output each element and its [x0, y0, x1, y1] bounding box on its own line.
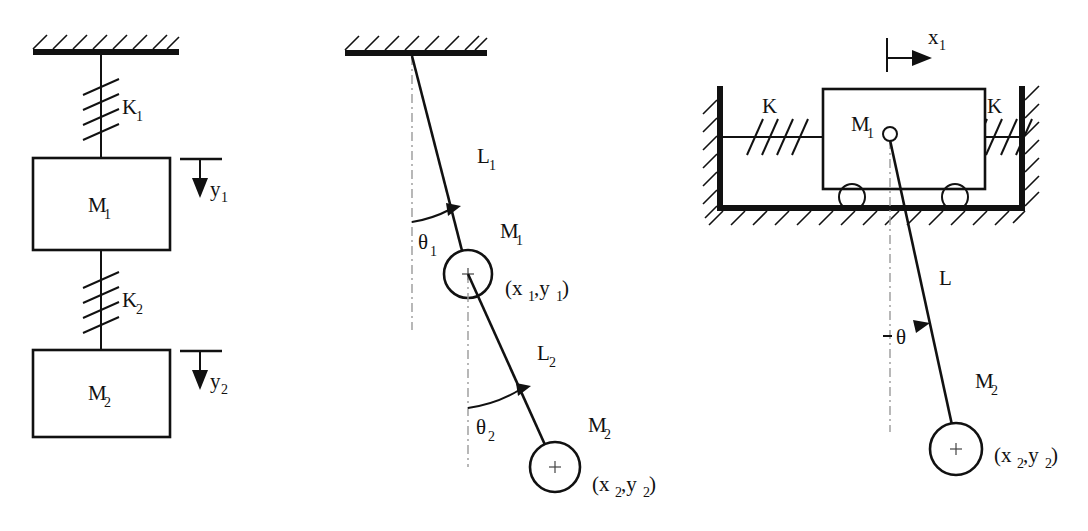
bob-m2-coordinates: (x 2 ,y 2 ) [592, 472, 656, 500]
pendulum-bob-m2-cart: M 2 (x 2 ,y 2 ) [930, 369, 1058, 475]
cart-bob-coordinates: (x 2 ,y 2 ) [994, 443, 1058, 471]
theta2-label-sub: 2 [488, 429, 495, 444]
spring-left-label: K [762, 94, 777, 118]
panel-double-pendulum: L 1 θ 1 M 1 (x 1 ,y 1 ) L [345, 36, 656, 500]
rod-l1-label: L [477, 144, 490, 168]
coord-cart-mid: ,y [1023, 443, 1039, 467]
theta1-label-sub: 1 [430, 244, 437, 259]
spring-k2-label: K [122, 288, 137, 312]
spring-left-k: K [723, 94, 823, 155]
y1-label: y [210, 177, 221, 201]
pendulum-bob-m2: M 2 (x 2 ,y 2 ) [530, 413, 656, 500]
floor-hatching [709, 211, 1025, 225]
bob-m2-label-sub: 2 [604, 427, 611, 442]
coord-m2-mid: ,y [621, 472, 637, 496]
cart-m1-rect [823, 89, 985, 189]
theta-arrow-head [913, 320, 930, 333]
theta2-arc [468, 389, 521, 408]
coord-cart-open: (x [994, 443, 1012, 467]
angle-theta2: θ 2 [468, 383, 531, 444]
mass-block-m1: M 1 [33, 158, 170, 250]
y1-label-sub: 1 [221, 190, 228, 205]
bob-m1-label-sub: 1 [516, 233, 523, 248]
left-wall-hatching [703, 100, 717, 218]
y1-arrow-head [192, 178, 208, 198]
pendulum-bob-m1: M 1 (x 1 ,y 1 ) [444, 219, 569, 304]
x1-label: x [928, 25, 939, 49]
spring-right-label: K [987, 94, 1002, 118]
mass-block-m2: M 2 [33, 350, 170, 437]
y2-label: y [210, 369, 221, 393]
ceiling-bar [345, 50, 487, 56]
theta2-label: θ [476, 415, 486, 439]
spring-k2: K 2 [83, 250, 143, 350]
theta1-label: θ [418, 230, 428, 254]
cart-bob-label-sub: 2 [991, 383, 998, 398]
right-wall [1019, 86, 1039, 211]
cart-body-m1: M 1 [823, 89, 985, 189]
left-wall [703, 86, 723, 218]
x1-label-sub: 1 [939, 38, 946, 53]
rod-l-label: L [939, 266, 952, 290]
coord-cart-close: ) [1051, 443, 1058, 467]
spring-k1-label-sub: 1 [136, 109, 143, 124]
y2-arrow-head [192, 370, 208, 390]
ceiling-hatching [33, 35, 179, 49]
right-wall-hatching [1025, 86, 1039, 206]
coord-m1-close: ) [562, 276, 569, 300]
theta-label: θ [896, 325, 906, 349]
ceiling-support-2 [345, 36, 487, 56]
x1-arrow-head [912, 50, 932, 66]
angle-theta1: θ 1 [412, 203, 461, 259]
floor-support [709, 205, 1025, 225]
panel-cart-pendulum: x 1 [703, 25, 1058, 475]
coord-m1-mid: ,y [534, 276, 550, 300]
ceiling-bar [33, 49, 179, 55]
coord-m2-close: ) [649, 472, 656, 496]
spring-k1: K 1 [83, 55, 143, 158]
rod-l2-label: L [537, 341, 550, 365]
spring-k2-label-sub: 2 [136, 302, 143, 317]
rod-l2-label-sub: 2 [549, 355, 556, 370]
displacement-x1: x 1 [887, 25, 946, 72]
coord-m2-open: (x [592, 472, 610, 496]
coord-m1-open: (x [505, 276, 523, 300]
ceiling-hatching [345, 36, 487, 50]
theta1-arc [412, 209, 451, 222]
figure-canvas: K 1 M 1 y 1 K 2 [0, 0, 1088, 531]
mass-m1-label-sub: 1 [104, 207, 111, 222]
cart-m1-label-sub: 1 [867, 126, 874, 141]
floor-bar [717, 205, 1025, 211]
panel-spring-mass: K 1 M 1 y 1 K 2 [33, 35, 228, 437]
displacement-y1: y 1 [180, 159, 228, 205]
displacement-y2: y 2 [180, 351, 228, 397]
bob-m1-coordinates: (x 1 ,y 1 ) [505, 276, 569, 304]
rod-l1-label-sub: 1 [489, 158, 496, 173]
mechanical-systems-figure: K 1 M 1 y 1 K 2 [0, 0, 1088, 531]
mass-m2-label-sub: 2 [104, 395, 111, 410]
left-wall-bar [717, 86, 723, 211]
ceiling-support-1 [33, 35, 179, 55]
spring-k1-label: K [122, 95, 137, 119]
y2-label-sub: 2 [221, 382, 228, 397]
